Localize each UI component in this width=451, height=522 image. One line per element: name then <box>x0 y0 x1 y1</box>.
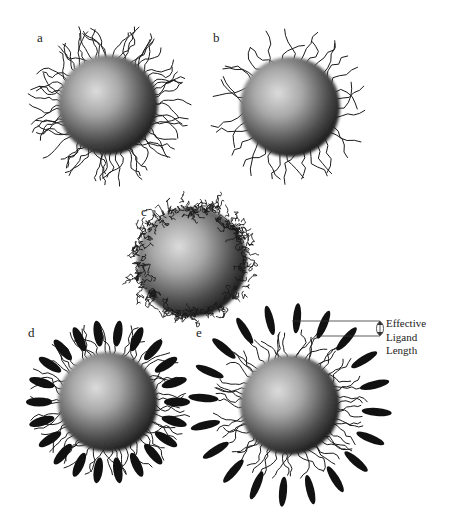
panel-label-a: a <box>37 30 43 46</box>
ligand-chain <box>336 110 365 117</box>
nanoparticle-core <box>240 57 340 157</box>
ligand-chain <box>216 128 249 132</box>
ligand-chain <box>284 154 296 185</box>
ligand-chain <box>85 447 95 475</box>
rod-ligand <box>355 429 386 448</box>
rod-ligand <box>359 377 390 392</box>
collapsed-ligand <box>242 291 248 299</box>
ligand-chain <box>250 142 258 176</box>
ligand-chain <box>83 31 99 59</box>
ligand-chain <box>307 449 325 472</box>
collapsed-ligand <box>225 205 229 217</box>
rod-ligand <box>51 441 75 467</box>
ligand-chain <box>331 67 358 84</box>
rod-ligand <box>160 375 187 391</box>
ligand-chain <box>220 379 248 384</box>
collapsed-ligand <box>248 274 257 282</box>
ligand-chain <box>272 452 288 479</box>
ligand-chain <box>139 41 154 69</box>
ligand-chain <box>332 358 351 384</box>
ligand-chain <box>337 405 361 410</box>
rod-ligand <box>201 439 231 461</box>
collapsed-ligand <box>242 284 250 288</box>
ligand-chain <box>302 152 306 179</box>
rod-ligand <box>210 336 238 362</box>
ligand-chain <box>226 362 252 377</box>
rod-ligand <box>188 393 219 403</box>
ligand-chain <box>65 150 94 173</box>
rod-ligand <box>190 418 221 433</box>
rod-ligand <box>194 362 225 381</box>
annotation-line-3: Length <box>386 344 426 358</box>
ligand-chain <box>296 337 311 359</box>
ligand-chain <box>232 137 254 155</box>
rod-ligand <box>247 470 266 501</box>
rod-ligand <box>160 413 187 429</box>
rod-ligand <box>37 428 64 450</box>
rod-ligand <box>262 305 277 336</box>
collapsed-ligand <box>250 263 257 268</box>
annotation-line-1: Effective <box>386 317 426 331</box>
rod-ligand <box>349 348 379 370</box>
nanoparticle-core <box>240 355 340 455</box>
nanoparticle-core <box>58 352 158 452</box>
ligand-chain <box>150 127 177 139</box>
ligand-chain <box>134 48 161 66</box>
rod-ligand <box>164 398 190 407</box>
ligand-chain <box>287 154 304 178</box>
rod-ligand <box>303 474 318 505</box>
figure-canvas: a b c d e Effective Ligand Length <box>0 0 451 522</box>
ligand-chain <box>123 27 135 62</box>
effective-ligand-length-label: Effective Ligand Length <box>386 317 426 358</box>
ligand-chain <box>333 126 361 142</box>
panel-label-d: d <box>28 325 35 341</box>
ligand-chain <box>155 393 186 398</box>
ligand-chain <box>61 142 79 160</box>
rod-ligand <box>111 457 124 484</box>
ligand-chain <box>294 330 307 359</box>
rod-ligand <box>221 457 247 485</box>
rod-ligand <box>92 457 105 484</box>
annotation-line-2: Ligand <box>386 331 426 345</box>
rod-ligand <box>334 325 360 353</box>
ligand-chain <box>42 72 71 78</box>
ligand-chain <box>221 79 244 97</box>
rod-ligand <box>153 354 180 376</box>
nanoparticle-core <box>58 55 158 155</box>
rod-ligand <box>127 451 146 478</box>
ligand-chain <box>211 113 244 128</box>
panel-label-c: c <box>141 204 147 220</box>
ligand-chain <box>298 451 324 470</box>
ligand-chain <box>243 147 265 167</box>
rod-ligand <box>324 464 346 494</box>
ligand-chain <box>108 449 113 475</box>
ligand-chain <box>112 33 128 59</box>
collapsed-ligand <box>218 200 224 215</box>
rod-ligand <box>292 303 302 334</box>
rod-ligand <box>278 476 288 507</box>
collapsed-ligand <box>179 191 184 202</box>
ligand-chain <box>213 93 243 104</box>
ligand-chain <box>131 146 147 171</box>
ligand-chain <box>250 343 266 365</box>
ligand-chain <box>153 116 178 139</box>
ligand-chain <box>148 67 173 80</box>
collapsed-ligand <box>174 318 178 323</box>
ligand-chain <box>310 149 327 176</box>
ligand-chain <box>151 72 178 85</box>
effective-length-marker <box>292 321 384 336</box>
rod-ligand <box>141 337 165 363</box>
rod-ligand <box>314 309 333 340</box>
ligand-chain <box>300 450 309 478</box>
ligand-chain <box>330 132 348 158</box>
collapsed-ligand <box>145 300 149 307</box>
ligand-chain <box>43 136 73 159</box>
collapsed-ligand <box>166 198 170 209</box>
rod-ligand <box>111 320 124 347</box>
rod-ligand <box>361 407 392 417</box>
panel-label-b: b <box>213 30 220 46</box>
ligand-chain <box>337 397 368 405</box>
ligand-chain <box>306 41 318 63</box>
ligand-chain <box>285 29 296 60</box>
ligand-chain <box>92 29 97 59</box>
